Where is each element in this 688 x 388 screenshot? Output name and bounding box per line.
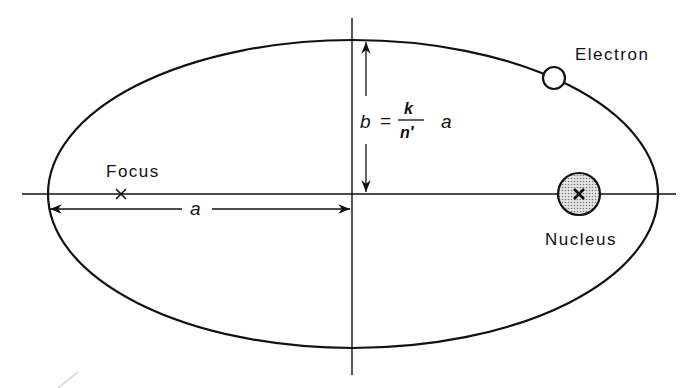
stray-mark <box>58 372 78 388</box>
focus-label: Focus <box>106 162 160 181</box>
formula-equals: = <box>380 110 391 131</box>
electron-circle <box>543 67 565 89</box>
formula-k: k <box>404 100 414 117</box>
formula-a: a <box>441 111 452 132</box>
semi-major-label: a <box>190 198 201 219</box>
formula-b: b <box>360 111 371 132</box>
electron-label: Electron <box>575 45 649 64</box>
nucleus-label: Nucleus <box>545 230 617 249</box>
orbit-diagram: a b = k n′ a Focus Nucleus Electron <box>0 0 688 388</box>
formula-n-prime: n′ <box>400 124 415 141</box>
semi-minor-formula: b = k n′ a <box>360 100 452 141</box>
